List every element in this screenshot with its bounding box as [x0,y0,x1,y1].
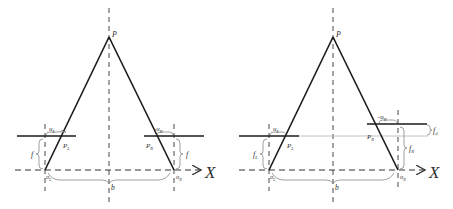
o-right-label: oR [176,173,182,182]
x-axis-label: X [428,163,440,182]
f-right-brace [400,127,407,169]
f-left-brace [260,139,267,169]
right-ray [109,37,174,170]
p-left-label: PL [62,142,70,151]
right-ray [333,37,398,170]
baseline-label: b [335,183,339,192]
u-left-label: uL [273,125,280,134]
f-left-label: f [31,150,35,159]
f-diff-brace [427,125,432,135]
u-left-label: uL [49,125,56,134]
f-right-label: fR [409,144,414,154]
f-left-label: fL [253,150,258,160]
o-right-label: oR [400,173,406,182]
p-left-label: PL [286,142,294,151]
left-ray [269,37,333,170]
apex-label: P [335,30,341,39]
f-right-label: f [186,150,190,159]
left-panel: P uL -uR PL PR f f oL oR b X [15,8,216,204]
p-right-label: PR [366,133,374,142]
stereo-geometry-diagram: P uL -uR PL PR f f oL oR b X P uL -uR [0,0,453,209]
x-axis-label: X [204,163,216,182]
baseline-label: b [111,183,115,192]
f-left-brace [36,139,43,169]
f-diff-label: fd [433,126,438,136]
u-right-label: -uR [378,113,387,122]
o-left-label: oL [270,173,276,182]
o-left-label: oL [46,173,52,182]
right-panel: P uL -uR PL PR fL fR fd oL oR b X [239,8,440,204]
p-right-label: PR [145,142,153,151]
apex-label: P [111,30,117,39]
left-ray [45,37,109,170]
u-right-label: -uR [154,125,163,134]
f-right-brace [176,139,183,169]
